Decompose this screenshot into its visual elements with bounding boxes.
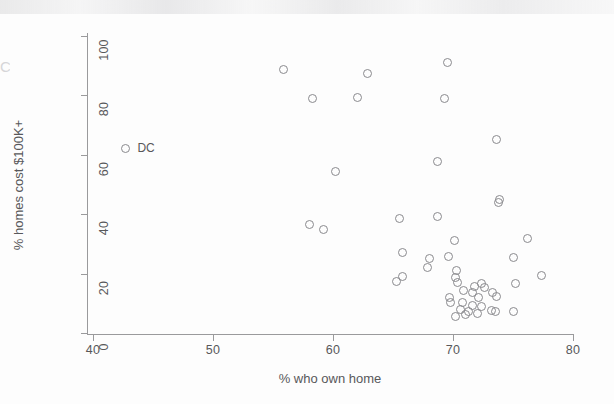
data-point xyxy=(474,293,483,302)
x-ticklabel-40: 40 xyxy=(73,343,113,357)
x-ticklabel-70: 70 xyxy=(433,343,473,357)
data-point xyxy=(319,225,328,234)
data-point xyxy=(363,69,372,78)
x-tick-80 xyxy=(573,335,574,341)
x-ticklabel-80: 80 xyxy=(553,343,593,357)
point-label-dc: DC xyxy=(137,141,154,155)
y-tick-60 xyxy=(81,155,87,156)
y-tick-80 xyxy=(81,95,87,96)
data-point xyxy=(494,198,503,207)
y-tick-20 xyxy=(81,274,87,275)
data-point xyxy=(392,277,401,286)
y-ticklabel-40: 40 xyxy=(97,213,111,243)
data-point xyxy=(440,94,449,103)
y-tick-100 xyxy=(81,36,87,37)
data-point xyxy=(461,310,470,319)
y-ticklabel-20: 20 xyxy=(97,273,111,303)
y-tick-0 xyxy=(81,333,87,334)
data-point xyxy=(492,292,501,301)
y-tick-40 xyxy=(81,214,87,215)
data-point xyxy=(492,135,501,144)
x-tick-70 xyxy=(453,335,454,341)
data-point xyxy=(121,144,130,153)
data-point xyxy=(446,298,455,307)
y-ticklabel-60: 60 xyxy=(97,154,111,184)
data-point xyxy=(491,307,500,316)
data-point xyxy=(473,309,482,318)
x-tick-40 xyxy=(93,335,94,341)
data-point xyxy=(433,212,442,221)
x-axis-line xyxy=(87,334,574,335)
data-point xyxy=(331,167,340,176)
data-point xyxy=(509,307,518,316)
data-point xyxy=(511,279,520,288)
data-point xyxy=(444,252,453,261)
x-tick-60 xyxy=(333,335,334,341)
data-point xyxy=(308,94,317,103)
x-ticklabel-60: 60 xyxy=(313,343,353,357)
data-point xyxy=(395,214,404,223)
data-point xyxy=(537,271,546,280)
data-point xyxy=(509,253,518,262)
screenshot-root: C 020406080100 4050607080 DC % homes cos… xyxy=(0,0,614,404)
data-point xyxy=(305,220,314,229)
data-point xyxy=(279,65,288,74)
y-ticklabel-100: 100 xyxy=(97,35,111,65)
data-point xyxy=(398,248,407,257)
data-point xyxy=(423,263,432,272)
data-point xyxy=(353,93,362,102)
x-axis-label: % who own home xyxy=(279,371,382,386)
data-point xyxy=(425,254,434,263)
x-tick-50 xyxy=(213,335,214,341)
data-point xyxy=(450,236,459,245)
data-point xyxy=(443,58,452,67)
data-point xyxy=(459,286,468,295)
y-ticklabel-80: 80 xyxy=(97,94,111,124)
data-point xyxy=(433,157,442,166)
y-axis-line xyxy=(87,33,88,334)
x-ticklabel-50: 50 xyxy=(193,343,233,357)
y-axis-label: % homes cost $100K+ xyxy=(11,120,26,250)
data-point xyxy=(451,312,460,321)
data-point xyxy=(523,234,532,243)
scatter-plot: 020406080100 4050607080 DC % homes cost … xyxy=(0,0,614,404)
